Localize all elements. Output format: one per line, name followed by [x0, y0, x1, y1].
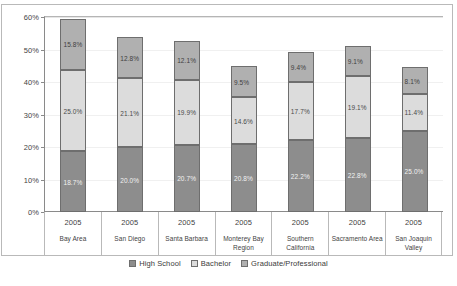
bar-segment[interactable]: 20.0% [117, 147, 143, 212]
y-axis: 0%10%20%30%40%50%60% [0, 0, 44, 213]
x-axis-category: 2005Monterey Bay Region [215, 212, 272, 256]
bar-segment-value-label: 12.8% [120, 55, 139, 63]
bar-segment-value-label: 14.6% [234, 118, 253, 126]
bars-layer: 18.7%25.0%15.8%20.0%21.1%12.8%20.7%19.9%… [45, 17, 443, 212]
bar-segment-value-label: 8.1% [405, 78, 420, 86]
bar-segment-value-label: 25.0% [405, 168, 424, 176]
x-axis-category: 2005Santa Barbara [158, 212, 215, 256]
y-axis-tick [41, 82, 44, 83]
x-axis-year-label: 2005 [102, 218, 158, 227]
x-axis-region-label: Bay Area [45, 235, 101, 244]
legend-item[interactable]: Bachelor [191, 259, 231, 268]
legend-label: Bachelor [201, 259, 231, 268]
bar-segment[interactable]: 18.7% [60, 151, 86, 212]
x-axis-region-label: San Diego [102, 235, 158, 244]
bar-segment-value-label: 20.8% [234, 175, 253, 183]
stacked-bar-chart: 0%10%20%30%40%50%60% 18.7%25.0%15.8%20.0… [0, 0, 457, 286]
bar-segment[interactable]: 25.0% [60, 70, 86, 151]
bar-segment-value-label: 9.1% [348, 58, 363, 66]
y-axis-tick-label: 0% [28, 208, 39, 217]
x-axis-year-label: 2005 [329, 218, 385, 227]
y-axis-tick [41, 115, 44, 116]
bar-segment[interactable]: 20.7% [174, 145, 200, 212]
chart-legend: High SchoolBachelorGraduate/Professional [0, 259, 457, 268]
bar-segment-value-label: 22.2% [291, 173, 310, 181]
bar-segment-value-label: 15.8% [63, 41, 82, 49]
legend-item[interactable]: Graduate/Professional [241, 259, 328, 268]
bar-segment[interactable]: 22.8% [345, 138, 371, 212]
bar-segment-value-label: 21.1% [120, 110, 139, 118]
x-axis-year-label: 2005 [272, 218, 328, 227]
y-axis-tick [41, 17, 44, 18]
bar-segment-value-label: 11.4% [405, 109, 423, 117]
x-axis-category: 2005Southern California [271, 212, 328, 256]
y-axis-tick-label: 50% [24, 45, 39, 54]
bar-segment[interactable]: 11.4% [402, 94, 428, 131]
legend-item[interactable]: High School [129, 259, 181, 268]
bar-segment[interactable]: 15.8% [60, 19, 86, 70]
bar-segment[interactable]: 9.1% [345, 46, 371, 76]
bar-segment[interactable]: 22.2% [288, 140, 314, 212]
bar-group: 20.7%19.9%12.1% [159, 17, 216, 212]
bar-segment[interactable]: 9.5% [231, 66, 257, 97]
bar-segment-value-label: 25.0% [63, 108, 82, 116]
y-axis-tick [41, 180, 44, 181]
bar-segment-value-label: 20.7% [177, 175, 196, 183]
bar-segment[interactable]: 19.9% [174, 80, 200, 145]
bar-segment-value-label: 9.5% [234, 79, 249, 87]
x-axis-year-label: 2005 [159, 218, 215, 227]
bar-segment[interactable]: 12.8% [117, 37, 143, 79]
x-axis-category: 2005San Diego [101, 212, 158, 256]
y-axis-tick-label: 30% [24, 110, 39, 119]
x-axis-year-label: 2005 [45, 218, 101, 227]
bar-group: 25.0%11.4%8.1% [386, 17, 443, 212]
bar-segment[interactable]: 25.0% [402, 131, 428, 212]
bar-segment-value-label: 19.9% [177, 109, 196, 117]
legend-swatch-icon [129, 260, 136, 267]
bar-segment-value-label: 18.7% [63, 179, 82, 187]
bar-segment[interactable]: 14.6% [231, 97, 257, 144]
bar-segment-value-label: 9.4% [291, 64, 306, 72]
legend-swatch-icon [241, 260, 248, 267]
bar-segment-value-label: 19.1% [348, 104, 367, 112]
bar-segment[interactable]: 21.1% [117, 78, 143, 147]
x-axis-region-label: San Joaquin Valley [386, 235, 441, 252]
y-axis-tick-label: 20% [24, 143, 39, 152]
bar-segment[interactable]: 17.7% [288, 82, 314, 140]
bar-group: 22.2%17.7%9.4% [272, 17, 329, 212]
y-axis-tick [41, 50, 44, 51]
x-axis-category: 2005San Joaquin Valley [385, 212, 442, 256]
y-axis-tick [41, 147, 44, 148]
y-axis-tick-label: 40% [24, 78, 39, 87]
bar-segment[interactable]: 8.1% [402, 67, 428, 93]
bar-group: 20.8%14.6%9.5% [216, 17, 273, 212]
x-axis-region-label: Santa Barbara [159, 235, 215, 244]
y-axis-tick-label: 10% [24, 175, 39, 184]
x-axis-year-label: 2005 [216, 218, 272, 227]
x-axis-category: 2005Sacramento Area [328, 212, 385, 256]
x-axis-categories: 2005Bay Area2005San Diego2005Santa Barba… [44, 212, 443, 256]
bar-segment-value-label: 20.0% [120, 177, 139, 185]
x-axis-region-label: Sacramento Area [329, 235, 385, 244]
x-axis-category: 2005Bay Area [44, 212, 101, 256]
bar-segment[interactable]: 19.1% [345, 76, 371, 138]
bar-segment[interactable]: 20.8% [231, 144, 257, 212]
bar-segment[interactable]: 9.4% [288, 52, 314, 83]
bar-segment-value-label: 17.7% [291, 108, 310, 116]
bar-segment-value-label: 22.8% [348, 172, 367, 180]
bar-segment-value-label: 12.1% [177, 57, 196, 65]
legend-label: Graduate/Professional [251, 259, 328, 268]
bar-segment[interactable]: 12.1% [174, 41, 200, 80]
bar-group: 18.7%25.0%15.8% [45, 17, 102, 212]
x-axis-region-label: Monterey Bay Region [216, 235, 272, 252]
legend-swatch-icon [191, 260, 198, 267]
x-axis-region-label: Southern California [272, 235, 328, 252]
x-axis-year-label: 2005 [386, 218, 441, 227]
bar-group: 22.8%19.1%9.1% [329, 17, 386, 212]
bar-group: 20.0%21.1%12.8% [102, 17, 159, 212]
legend-label: High School [139, 259, 181, 268]
y-axis-tick-label: 60% [24, 13, 39, 22]
